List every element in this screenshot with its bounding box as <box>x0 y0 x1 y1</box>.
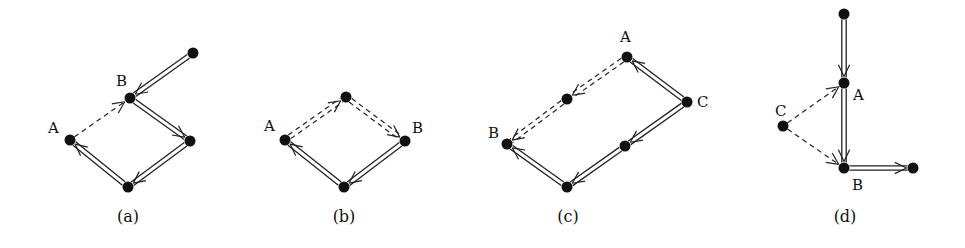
panel-caption: (b) <box>333 207 356 226</box>
arrowhead-icon <box>838 150 849 162</box>
node-label: C <box>697 93 708 111</box>
arrowhead-icon <box>895 162 907 173</box>
node-label: B <box>488 124 499 142</box>
node-b-top <box>341 92 352 103</box>
edge-c-C-to-c-mid-solid <box>628 103 684 144</box>
edge-d-C-to-d-A <box>787 86 839 123</box>
panel-b: AB(b) <box>263 92 423 227</box>
edge-a-A-to-a-B <box>75 101 126 137</box>
panel-a: BA(a) <box>47 48 199 227</box>
node-label: A <box>619 28 631 46</box>
edge-c-mid-dashed-to-c-B <box>510 101 564 143</box>
node-d-top <box>839 9 850 20</box>
node-c-mid-solid <box>620 141 631 152</box>
node-a-B: B <box>116 72 136 104</box>
node-c-A: A <box>619 28 633 63</box>
edge-b-bottom-to-b-A <box>288 142 341 186</box>
panel-d: ACB(d) <box>775 9 919 227</box>
node-a-bottom <box>123 182 134 193</box>
node-label: A <box>852 86 864 104</box>
edge-b-B-to-b-bottom <box>347 143 402 186</box>
node-c-C: C <box>682 93 709 111</box>
edge-d-B-to-d-right <box>850 162 908 173</box>
arrowhead-icon <box>512 129 525 141</box>
node-label: C <box>775 102 786 120</box>
edge-c-A-to-c-mid-dashed <box>570 58 624 97</box>
node-a-A: A <box>47 119 76 146</box>
edge-d-top-to-d-A <box>838 20 849 78</box>
node-d-C: C <box>775 102 789 132</box>
node-b-B: B <box>400 119 424 147</box>
node-c-B: B <box>488 124 513 150</box>
panel-caption: (c) <box>557 207 578 226</box>
edge-d-C-to-d-B <box>788 129 840 165</box>
node-c-bottom <box>562 182 573 193</box>
node-label: B <box>412 119 423 137</box>
panel-c: ACB(c) <box>488 28 708 226</box>
node-d-right <box>908 163 919 174</box>
node-label: B <box>852 176 863 194</box>
arrowhead-icon <box>838 65 849 77</box>
edge-c-C-to-c-A <box>630 59 684 101</box>
node-label: A <box>47 119 59 137</box>
edge-c-mid-solid-to-c-bottom <box>570 147 622 185</box>
panel-caption: (a) <box>117 207 139 226</box>
arrowhead-icon <box>826 87 839 98</box>
arrowhead-icon <box>826 153 839 164</box>
panel-caption: (d) <box>834 207 857 226</box>
edge-c-bottom-to-c-B <box>510 145 564 185</box>
edge-a-B-to-a-right <box>133 99 187 139</box>
edge-a-top-to-a-B <box>133 54 190 96</box>
edge-a-right-to-a-bottom <box>131 143 187 186</box>
edge-b-A-to-b-top <box>288 98 343 138</box>
edge-b-top-to-b-B <box>349 99 402 140</box>
node-a-right <box>185 136 196 147</box>
edge-d-A-to-d-B <box>838 89 849 163</box>
node-a-top <box>188 48 199 59</box>
node-label: B <box>116 72 127 90</box>
node-label: A <box>263 117 275 135</box>
node-b-bottom <box>339 182 350 193</box>
node-b-A: A <box>263 117 291 146</box>
node-c-mid-dashed <box>562 94 573 105</box>
edge-a-bottom-to-a-A <box>73 142 125 185</box>
node-d-B: B <box>839 163 864 195</box>
graph-figure: BA(a) AB(b) ACB(c) ACB(d) <box>0 0 965 248</box>
